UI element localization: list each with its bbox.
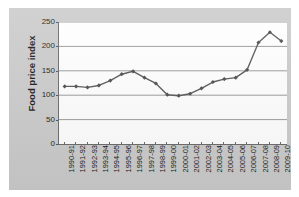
x-tick-mark-1991-92 [75,142,76,145]
x-tick-mark-1996-97 [132,142,133,145]
x-tick-mark-1999-00 [166,142,167,145]
x-tick-mark-1990-91 [64,142,65,145]
plot-area [58,22,287,145]
y-axis-tick-labels: 050100150200250 [31,22,55,144]
x-tick-label-1991-92: 1991-92 [78,145,87,185]
x-tick-label-2000-01: 2000-01 [181,145,190,185]
y-tick-label-0: 0 [31,140,55,148]
x-axis-tick-labels: 1990-911991-921992-931993-941994-951995-… [58,145,286,197]
x-tick-label-1999-00: 1999-00 [169,145,178,185]
x-tick-label-2002-03: 2002-03 [204,145,213,185]
x-tick-label-1992-93: 1992-93 [90,145,99,185]
x-tick-label-1998-99: 1998-99 [158,145,167,185]
data-point-2000-01 [177,94,181,98]
x-tick-mark-2002-03 [201,142,202,145]
x-tick-label-1993-94: 1993-94 [101,145,110,185]
x-tick-mark-2004-05 [223,142,224,145]
y-tick-label-200: 200 [31,42,55,50]
x-tick-mark-2009-10 [280,142,281,145]
x-tick-label-1995-96: 1995-96 [124,145,133,185]
data-point-1992-93 [85,85,89,89]
x-tick-mark-1995-96 [121,142,122,145]
x-tick-mark-2005-06 [235,142,236,145]
x-tick-label-2007-08: 2007-08 [261,145,270,185]
y-tick-label-100: 100 [31,91,55,99]
x-tick-mark-1994-95 [109,142,110,145]
line-series-svg [59,22,287,144]
data-point-1990-91 [63,84,67,88]
gridlines-group [59,22,287,120]
x-tick-label-2001-02: 2001-02 [192,145,201,185]
x-tick-mark-1992-93 [87,142,88,145]
x-tick-label-2004-05: 2004-05 [226,145,235,185]
x-tick-label-2005-06: 2005-06 [238,145,247,185]
chart-area: Food price index 050100150200250 1990-91… [9,8,291,190]
x-tick-label-1994-95: 1994-95 [112,145,121,185]
data-point-2004-05 [222,77,226,81]
x-tick-mark-2000-01 [178,142,179,145]
x-tick-label-1996-97: 1996-97 [135,145,144,185]
data-point-1991-92 [74,84,78,88]
x-tick-mark-2008-09 [269,142,270,145]
x-tick-mark-2007-08 [258,142,259,145]
x-tick-label-1990-91: 1990-91 [67,145,76,185]
y-tick-label-250: 250 [31,18,55,26]
x-tick-mark-2003-04 [212,142,213,145]
chart-screenshot: Food price index 050100150200250 1990-91… [0,0,299,197]
x-tick-label-2006-07: 2006-07 [249,145,258,185]
x-tick-label-1997-98: 1997-98 [147,145,156,185]
data-point-1993-94 [97,83,101,87]
x-tick-mark-2006-07 [246,142,247,145]
x-tick-mark-1993-94 [98,142,99,145]
x-tick-label-2003-04: 2003-04 [215,145,224,185]
x-tick-mark-1997-98 [144,142,145,145]
x-tick-mark-1998-99 [155,142,156,145]
series-line-food-price-index [65,32,282,95]
x-tick-mark-2001-02 [189,142,190,145]
x-tick-label-2008-09: 2008-09 [272,145,281,185]
y-tick-label-50: 50 [31,116,55,124]
x-tick-label-2009-10: 2009-10 [283,145,292,185]
y-tick-label-150: 150 [31,67,55,75]
